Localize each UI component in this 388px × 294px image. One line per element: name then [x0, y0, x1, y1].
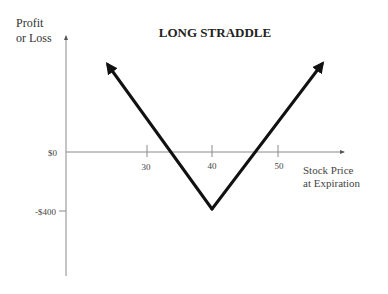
long-straddle-chart: LONG STRADDLE Profit or Loss $0 -$400 30…: [0, 0, 388, 294]
y-tick-label-minus-400: -$400: [35, 207, 56, 217]
y-tick-label-0: $0: [48, 148, 58, 158]
chart-canvas: LONG STRADDLE Profit or Loss $0 -$400 30…: [0, 0, 388, 294]
x-axis-label-line1: Stock Price: [303, 164, 354, 176]
x-tick-label-30: 30: [142, 162, 152, 172]
x-tick-label-50: 50: [275, 161, 285, 171]
x-tick-label-40: 40: [208, 161, 218, 171]
y-axis-label-line2: or Loss: [16, 31, 52, 45]
chart-title: LONG STRADDLE: [159, 25, 271, 40]
y-axis-label-line1: Profit: [16, 16, 44, 30]
x-axis-label-line2: at Expiration: [303, 177, 361, 189]
payoff-line-left-leg: [108, 65, 212, 209]
